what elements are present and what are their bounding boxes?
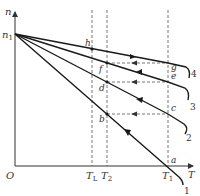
curve-label-4: 4 xyxy=(191,69,197,79)
origin-label: O xyxy=(6,170,14,181)
tick-T1: T1 xyxy=(162,170,173,183)
point-b xyxy=(105,112,108,115)
label-c: c xyxy=(171,103,176,113)
point-h xyxy=(90,47,93,50)
curve-label-3: 3 xyxy=(190,102,196,112)
tick-T2: T2 xyxy=(101,170,112,183)
point-d xyxy=(105,80,108,83)
label-b: b xyxy=(99,114,105,124)
diagram-canvas: n T O n1 TL T2 T1 a b c d e f g h 1 2 3 … xyxy=(0,0,200,196)
arrow-ed xyxy=(131,80,137,85)
label-a: a xyxy=(171,155,176,165)
y-axis-label: n xyxy=(5,6,11,17)
curve-1 xyxy=(15,34,183,185)
arrow-gf xyxy=(131,61,137,66)
label-e: e xyxy=(171,71,176,81)
curve-label-2: 2 xyxy=(186,133,192,143)
arrow-curve-3 xyxy=(136,69,142,75)
label-d: d xyxy=(99,83,105,93)
tick-TL: TL xyxy=(86,170,98,183)
arrow-cb xyxy=(131,112,137,117)
x-axis-label: T xyxy=(188,169,196,180)
label-h: h xyxy=(85,38,91,48)
n1-label: n1 xyxy=(2,29,13,42)
curve-label-1: 1 xyxy=(184,186,190,196)
label-g: g xyxy=(171,62,177,72)
point-f xyxy=(105,61,108,64)
label-f: f xyxy=(98,64,104,74)
